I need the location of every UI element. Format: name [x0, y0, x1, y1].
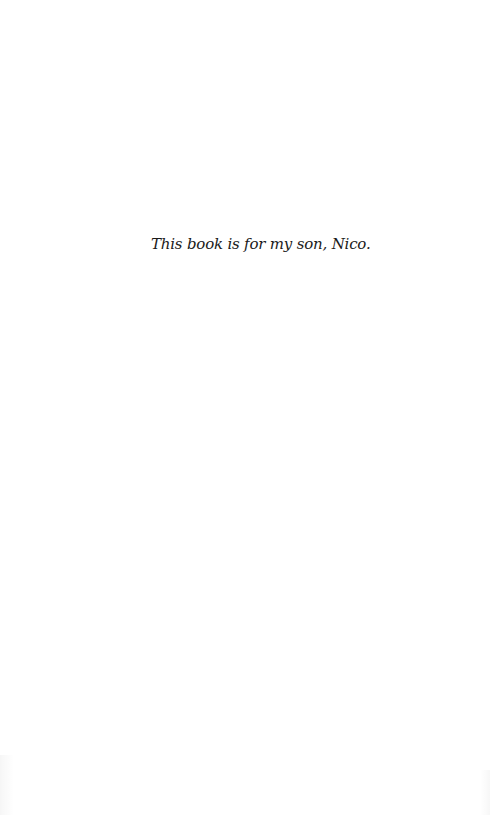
dedication-text: This book is for my son, Nico. [151, 233, 370, 255]
book-page: This book is for my son, Nico. [0, 0, 490, 815]
scan-shadow-right [480, 770, 490, 815]
scan-shadow-left [0, 755, 14, 815]
